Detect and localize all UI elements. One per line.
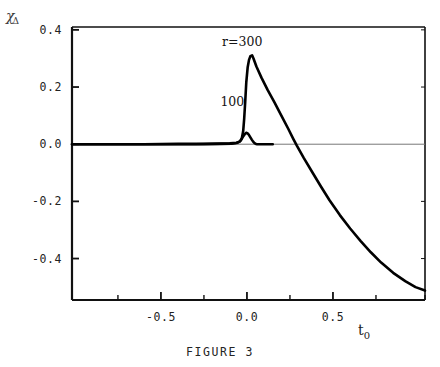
series-annotation: r=300 [222, 34, 262, 49]
y-tick-label: 0.2 [16, 80, 62, 94]
figure-container: χΔ 0.40.20.0-0.2-0.4-0.50.00.5r=300100 t… [0, 0, 440, 367]
y-tick-label: -0.2 [16, 194, 62, 208]
x-axis-label-subscript: 0 [364, 330, 370, 341]
x-axis-label: t0 [358, 322, 370, 341]
y-tick-label: 0.0 [16, 137, 62, 151]
figure-caption: FIGURE 3 [0, 345, 440, 359]
data-series-group [72, 55, 425, 290]
x-tick-label: 0.0 [217, 310, 277, 324]
series-line-r-300 [72, 55, 425, 290]
x-tick-label: 0.5 [303, 310, 363, 324]
y-tick-label: 0.4 [16, 23, 62, 37]
y-tick-label: -0.4 [16, 252, 62, 266]
series-annotation: 100 [220, 94, 244, 109]
x-tick-label: -0.5 [131, 310, 191, 324]
